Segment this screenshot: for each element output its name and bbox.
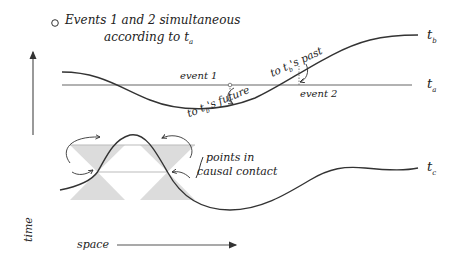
label-t-b-sub: b xyxy=(432,37,436,45)
title-line-2-text: according to t xyxy=(104,30,189,44)
label-t-b: tb xyxy=(427,27,437,45)
cone-arrow-4 xyxy=(172,172,190,178)
bullet-icon xyxy=(52,20,59,27)
label-t-c-sub: c xyxy=(432,169,436,177)
label-t-c: tc xyxy=(427,159,436,177)
event-2-label: event 2 xyxy=(300,88,338,99)
title-line-2: according to ta xyxy=(104,30,193,46)
cone-arrow-2 xyxy=(72,170,93,174)
causal-line-2: causal contact xyxy=(197,165,277,178)
title-line-2-sub: a xyxy=(189,38,193,46)
label-t-a-sub: a xyxy=(432,86,436,94)
title-line-1: Events 1 and 2 simultaneous xyxy=(65,13,240,27)
causal-line-1: points in xyxy=(206,151,254,164)
time-axis-label: time xyxy=(22,217,35,242)
diagram-canvas xyxy=(0,0,462,263)
spacetime-diagram: Events 1 and 2 simultaneous according to… xyxy=(0,0,462,263)
label-t-a: ta xyxy=(427,76,436,94)
space-axis-label: space xyxy=(77,238,109,251)
event-1-label: event 1 xyxy=(180,70,218,81)
